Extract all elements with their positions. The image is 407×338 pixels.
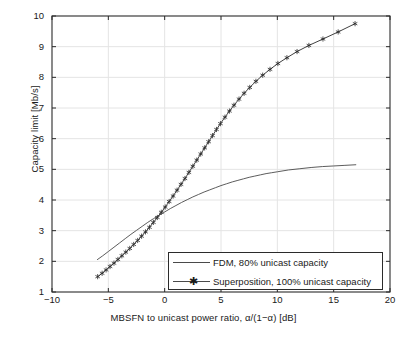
legend-swatch-star-line-icon: ✱: [169, 272, 213, 291]
x-tick-label: 10: [257, 294, 297, 305]
y-tick-label: 3: [14, 225, 44, 236]
x-axis-label: MBSFN to unicast power ratio, α/(1−α) [d…: [0, 312, 407, 323]
legend-swatch-line-icon: [169, 253, 213, 272]
data-point-marker: [285, 55, 290, 60]
legend-entry-fdm: FDM, 80% unicast capacity: [169, 253, 382, 272]
data-point-marker: [295, 49, 300, 54]
data-point-marker: [307, 43, 312, 48]
legend-label-fdm: FDM, 80% unicast capacity: [213, 257, 328, 268]
y-tick-label: 2: [14, 255, 44, 266]
y-tick-label: 10: [14, 10, 44, 21]
legend-entry-superposition: ✱ Superposition, 100% unicast capacity: [169, 272, 382, 291]
x-tick-label: 0: [145, 294, 185, 305]
x-tick-label: 5: [201, 294, 241, 305]
x-tick-label: 20: [370, 294, 407, 305]
data-point-marker: [353, 21, 358, 26]
y-axis-label-wrapper: Capacity limit [Mb/s]: [24, 39, 42, 219]
legend-label-superposition: Superposition, 100% unicast capacity: [213, 276, 371, 287]
series-line-1: [98, 24, 355, 277]
data-point-marker: [336, 29, 341, 34]
x-tick-label: −5: [88, 294, 128, 305]
x-tick-label: 15: [314, 294, 354, 305]
y-axis-label: Capacity limit [Mb/s]: [29, 85, 40, 172]
series-group: [95, 21, 357, 279]
chart-legend: FDM, 80% unicast capacity ✱ Superpositio…: [168, 252, 383, 290]
x-tick-label: −10: [32, 294, 72, 305]
chart-figure: 12345678910 −10−505101520 MBSFN to unica…: [0, 0, 407, 338]
data-point-marker: [321, 36, 326, 41]
data-point-marker: [95, 274, 100, 279]
gridlines-group: [52, 16, 390, 292]
data-point-marker: [276, 61, 281, 66]
